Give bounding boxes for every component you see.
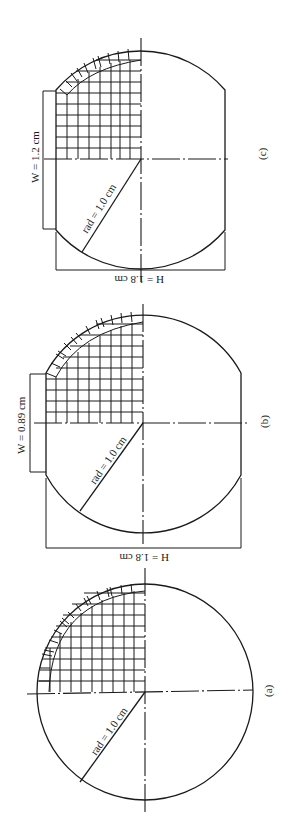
mesh-diagram: W = 1.2 cm rad = 1.0 cm H = 1.8 cm (c) bbox=[0, 0, 299, 824]
figure-c-caption: (c) bbox=[256, 147, 269, 160]
figure-b-radius-label: rad = 1.0 cm bbox=[87, 433, 129, 486]
figure-c-mesh bbox=[56, 49, 141, 159]
figure-b-width-label: W = 0.89 cm bbox=[15, 396, 27, 454]
figure-b-height-label: H = 1.8 cm bbox=[119, 552, 169, 564]
figure-a-radius-line bbox=[80, 692, 145, 782]
figure-a-mesh bbox=[37, 584, 145, 692]
figure-c-width-bracket bbox=[43, 91, 56, 229]
figure-a-radius-label: rad = 1.0 cm bbox=[88, 704, 130, 757]
figure-a: rad = 1.0 cm (a) bbox=[27, 568, 275, 812]
figure-c-width-label: W = 1.2 cm bbox=[29, 131, 41, 183]
figure-c-height-label: H = 1.8 cm bbox=[114, 274, 164, 286]
figure-c: W = 1.2 cm rad = 1.0 cm H = 1.8 cm (c) bbox=[29, 38, 269, 286]
figure-b-caption: (b) bbox=[258, 415, 271, 428]
figure-b-mesh bbox=[46, 312, 143, 423]
figure-a-caption: (a) bbox=[262, 684, 275, 697]
figure-a-horizontal-axis bbox=[27, 690, 253, 694]
figure-b: W = 0.89 cm rad = 1.0 cm H = 1.8 cm (b) bbox=[15, 304, 271, 564]
figure-c-radius-line bbox=[82, 159, 141, 252]
figure-b-radius-line bbox=[80, 423, 143, 511]
